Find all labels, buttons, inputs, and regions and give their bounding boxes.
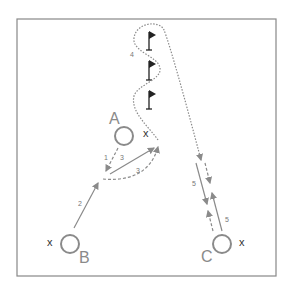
- step-label-3a: 3: [120, 154, 124, 161]
- marker-x-b: x: [47, 237, 53, 248]
- run-path-3: [103, 147, 158, 179]
- step-label-5a: 5: [192, 180, 196, 187]
- flag-icon: [146, 90, 156, 109]
- player-c-circle: [213, 235, 231, 253]
- step-label-2: 2: [78, 200, 82, 207]
- flag-icon: [146, 60, 156, 80]
- step-label-3b: 3: [136, 167, 140, 174]
- dribble-path-4: [133, 24, 201, 160]
- step-label-1: 1: [104, 154, 108, 161]
- flag-icon: [146, 31, 156, 50]
- step-label-4: 4: [130, 51, 134, 58]
- player-b-label: B: [79, 250, 90, 266]
- player-c-label: C: [201, 249, 213, 265]
- player-a-label: A: [109, 111, 120, 127]
- dashed-line-5b: [208, 211, 213, 231]
- pass-line-3: [110, 148, 154, 174]
- drill-diagram: [0, 0, 293, 293]
- field-border: [17, 19, 276, 276]
- marker-x-c: x: [239, 237, 245, 248]
- player-b-circle: [61, 235, 79, 253]
- player-a-circle: [115, 127, 133, 145]
- pass-line-5b: [212, 193, 222, 231]
- step-label-5b: 5: [225, 216, 229, 223]
- marker-x-a: x: [143, 128, 149, 139]
- pass-line-5a: [196, 163, 207, 204]
- dashed-line-5a: [205, 163, 210, 183]
